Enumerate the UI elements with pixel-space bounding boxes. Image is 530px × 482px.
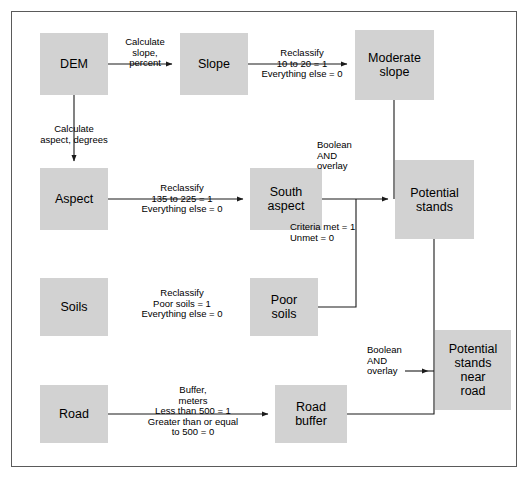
- node-road[interactable]: Road: [40, 385, 108, 443]
- edge-label-buffer-road: Buffer, meters Less than 500 = 1 Greater…: [118, 385, 268, 438]
- node-poor-soils[interactable]: Poor soils: [250, 278, 318, 336]
- node-dem[interactable]: DEM: [40, 33, 108, 95]
- node-soils[interactable]: Soils: [40, 278, 108, 336]
- edge-label-reclassify-soils: Reclassify Poor soils = 1 Everything els…: [119, 288, 245, 320]
- edge-label-boolean-and-overlay-1: Boolean AND overlay: [317, 140, 373, 172]
- node-slope[interactable]: Slope: [180, 33, 248, 95]
- flowchart-page: DEM Slope Moderate slope Aspect South as…: [0, 0, 530, 482]
- node-aspect[interactable]: Aspect: [40, 168, 108, 230]
- edge-label-reclassify-slope: Reclassify 10 to 20 = 1 Everything else …: [251, 48, 353, 80]
- node-moderate-slope[interactable]: Moderate slope: [355, 30, 434, 100]
- edge-label-boolean-and-overlay-2: Boolean AND overlay: [367, 345, 423, 377]
- edge-label-calculate-slope: Calculate slope, percent: [112, 37, 178, 69]
- node-potential-stands[interactable]: Potential stands: [395, 160, 474, 239]
- edge-label-reclassify-aspect: Reclassify 135 to 225 = 1 Everything els…: [119, 183, 245, 215]
- node-road-buffer[interactable]: Road buffer: [275, 385, 347, 443]
- node-potential-stands-near-road[interactable]: Potential stands near road: [435, 330, 511, 410]
- edge-label-criteria-met: Criteria met = 1 Unmet = 0: [290, 222, 376, 243]
- edge-label-calculate-aspect: Calculate aspect, degrees: [22, 124, 126, 145]
